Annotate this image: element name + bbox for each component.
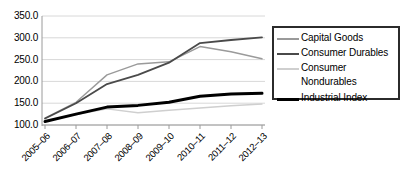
y-axis-tick-label: 250.0 [0,55,38,65]
legend-label: Capital Goods [301,31,363,45]
y-axis-tick-label: 350.0 [0,11,38,21]
legend-item-capital-goods[interactable]: Capital Goods [277,31,394,46]
series-lines [45,37,262,121]
y-axis-tick-label: 150.0 [0,98,38,108]
line-swatch-consumer-durables-icon [277,46,301,55]
legend-item-consumer-durables[interactable]: Consumer Durables [277,46,394,61]
x-tick-marks [45,125,262,129]
legend-label: Consumer Nondurables [301,61,357,89]
line-chart: 350.0300.0250.0200.0150.0100.0 2005–0620… [0,0,405,175]
legend-label: Consumer Durables [301,46,388,60]
line-swatch-consumer-nondurables-icon [277,61,301,70]
legend-item-industrial-index[interactable]: Industrial Index [277,91,394,106]
y-axis-tick-label: 200.0 [0,76,38,86]
legend-label: Industrial Index [301,91,367,105]
line-swatch-capital-goods-icon [277,31,301,40]
chart-legend: Capital Goods Consumer Durables Consumer… [272,26,400,100]
series-line-capital-goods [45,47,262,119]
y-axis-tick-label: 300.0 [0,33,38,43]
line-swatch-industrial-index-icon [277,91,301,101]
series-line-industrial-index [45,93,262,121]
gridlines [42,16,265,125]
y-axis-tick-label: 100.0 [0,120,38,130]
legend-item-consumer-nondurables[interactable]: Consumer Nondurables [277,61,394,91]
axis-lines [42,16,265,126]
